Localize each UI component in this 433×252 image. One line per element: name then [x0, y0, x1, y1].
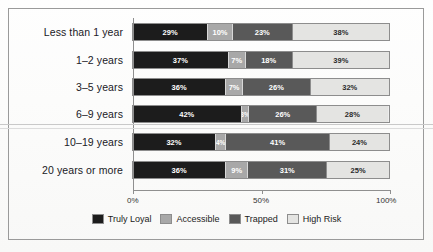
table-row: 6–9 years 42% 3% 26% 28% — [20, 103, 392, 125]
legend-label: High Risk — [303, 214, 342, 224]
category-label: 6–9 years — [20, 108, 132, 120]
bar-segment-accessible: 7% — [228, 52, 246, 68]
bar-segment-accessible: 4% — [215, 134, 227, 150]
legend-label: Accessible — [176, 214, 219, 224]
bar-segment-trapped: 26% — [249, 106, 316, 122]
bar-segment-accessible: 10% — [207, 24, 233, 40]
chart-legend: Truly Loyal Accessible Trapped High Risk — [0, 214, 433, 224]
bar-segment-trapped: 23% — [233, 24, 292, 40]
x-axis-tick-label-0: 0% — [127, 196, 139, 205]
bar-segment-truly-loyal: 42% — [133, 106, 241, 122]
legend-item-trapped: Trapped — [229, 214, 278, 224]
bar-segment-high-risk: 28% — [316, 106, 388, 122]
stacked-bar: 42% 3% 26% 28% — [132, 105, 390, 123]
category-label: 10–19 years — [20, 136, 132, 148]
scan-artifact-line — [0, 124, 433, 125]
x-axis-tick-0 — [133, 190, 134, 194]
stacked-bar: 29% 10% 23% 38% — [132, 23, 390, 41]
scan-artifact-line — [0, 128, 433, 129]
bar-segment-high-risk: 24% — [329, 134, 389, 150]
x-axis-tick-label-50: 50% — [253, 196, 269, 205]
bar-segment-truly-loyal: 32% — [133, 134, 215, 150]
bar-segment-accessible: 7% — [225, 79, 243, 95]
legend-item-accessible: Accessible — [160, 214, 219, 224]
bar-segment-trapped: 31% — [248, 162, 326, 178]
stacked-bar: 32% 4% 41% 24% — [132, 133, 390, 151]
plot-area: Less than 1 year 29% 10% 23% 38% 1–2 yea… — [0, 0, 433, 252]
legend-swatch-icon — [287, 214, 299, 224]
bar-segment-trapped: 41% — [226, 134, 328, 150]
legend-swatch-icon — [92, 214, 104, 224]
bar-segment-truly-loyal: 36% — [133, 162, 225, 178]
legend-label: Truly Loyal — [108, 214, 152, 224]
bar-segment-trapped: 26% — [243, 79, 310, 95]
legend-swatch-icon — [229, 214, 241, 224]
table-row: 10–19 years 32% 4% 41% 24% — [20, 131, 392, 153]
table-row: 1–2 years 37% 7% 18% 39% — [20, 49, 392, 71]
bar-segment-high-risk: 38% — [292, 24, 389, 40]
legend-swatch-icon — [160, 214, 172, 224]
bar-segment-trapped: 18% — [246, 52, 292, 68]
x-axis-tick-label-100: 100% — [376, 196, 396, 205]
bar-segment-truly-loyal: 29% — [133, 24, 207, 40]
bar-segment-high-risk: 32% — [310, 79, 389, 95]
table-row: Less than 1 year 29% 10% 23% 38% — [20, 21, 392, 43]
stacked-bar: 36% 7% 26% 32% — [132, 78, 390, 96]
bar-segment-accessible: 9% — [225, 162, 248, 178]
y-axis-line — [133, 18, 134, 190]
x-axis-tick-100 — [390, 190, 391, 194]
x-axis-tick-50 — [262, 190, 263, 194]
legend-label: Trapped — [245, 214, 278, 224]
category-label: 20 years or more — [20, 164, 132, 176]
chart-page: Less than 1 year 29% 10% 23% 38% 1–2 yea… — [0, 0, 433, 252]
bar-segment-truly-loyal: 36% — [133, 79, 225, 95]
bar-segment-truly-loyal: 37% — [133, 52, 228, 68]
bar-segment-high-risk: 25% — [326, 162, 389, 178]
bar-segment-high-risk: 39% — [292, 52, 389, 68]
category-label: 1–2 years — [20, 54, 132, 66]
table-row: 20 years or more 36% 9% 31% 25% — [20, 159, 392, 181]
category-label: Less than 1 year — [20, 26, 132, 38]
legend-item-high-risk: High Risk — [287, 214, 342, 224]
stacked-bar: 37% 7% 18% 39% — [132, 51, 390, 69]
bar-segment-accessible: 3% — [241, 106, 250, 122]
table-row: 3–5 years 36% 7% 26% 32% — [20, 76, 392, 98]
category-label: 3–5 years — [20, 81, 132, 93]
legend-item-truly-loyal: Truly Loyal — [92, 214, 152, 224]
stacked-bar: 36% 9% 31% 25% — [132, 161, 390, 179]
